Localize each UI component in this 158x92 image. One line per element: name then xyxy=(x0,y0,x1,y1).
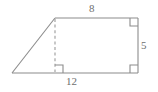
geometry-figure-container: 8 5 12 xyxy=(0,0,158,92)
right-angle-marker-bottom-right-icon xyxy=(130,65,138,73)
top-side-length-label: 8 xyxy=(89,3,95,14)
left-slant-line xyxy=(12,18,55,73)
right-angle-marker-top-right-icon xyxy=(130,18,138,26)
bottom-side-length-label: 12 xyxy=(66,76,77,87)
trapezoid-diagram xyxy=(0,0,158,92)
right-angle-marker-altitude-base-icon xyxy=(55,65,63,73)
right-side-length-label: 5 xyxy=(141,40,147,51)
